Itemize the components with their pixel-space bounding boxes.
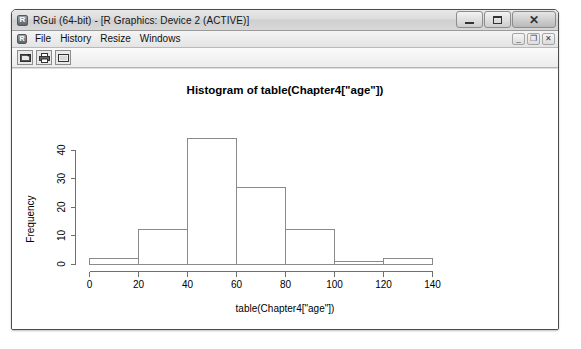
x-tick-label-0: 0 xyxy=(87,279,93,290)
mdi-minimize-button[interactable]: _ xyxy=(512,33,525,45)
maximize-button[interactable] xyxy=(484,11,511,28)
y-tick-label-20: 20 xyxy=(56,201,67,213)
x-tick-label-80: 80 xyxy=(280,279,292,290)
y-tick-label-30: 30 xyxy=(56,173,67,185)
toolbar xyxy=(12,48,558,68)
histogram-bar xyxy=(237,187,286,264)
x-tick-label-100: 100 xyxy=(326,279,343,290)
histogram-plot: Histogram of table(Chapter4["age"]) Freq… xyxy=(12,69,558,330)
y-tick-label-40: 40 xyxy=(56,144,67,156)
graphics-device-canvas[interactable]: Histogram of table(Chapter4["age"]) Freq… xyxy=(12,68,558,330)
rgui-window: RGui (64-bit) - [R Graphics: Device 2 (A… xyxy=(11,9,559,330)
x-axis-label: table(Chapter4["age"]) xyxy=(236,303,335,314)
mdi-restore-button[interactable]: ❐ xyxy=(527,33,540,45)
printer-icon xyxy=(39,53,50,63)
r-logo-icon xyxy=(17,15,28,26)
print-button[interactable] xyxy=(36,50,52,65)
menu-item-file[interactable]: File xyxy=(33,32,58,46)
copy-to-clipboard-button[interactable] xyxy=(17,50,33,65)
y-tick-label-10: 10 xyxy=(56,230,67,242)
x-tick-label-60: 60 xyxy=(231,279,243,290)
histogram-bar xyxy=(90,258,139,264)
close-button[interactable]: ✕ xyxy=(512,11,556,28)
histogram-bar xyxy=(139,230,188,264)
histogram-bar xyxy=(384,258,433,264)
mdi-close-button[interactable]: ✕ xyxy=(542,33,555,45)
x-tick-label-20: 20 xyxy=(133,279,145,290)
window-controls: ✕ xyxy=(455,11,556,28)
menubar: File History Resize Windows _ ❐ ✕ xyxy=(12,31,558,48)
x-tick-label-40: 40 xyxy=(182,279,194,290)
window-icon xyxy=(58,53,69,63)
y-axis-label: Frequency xyxy=(25,195,36,242)
mdi-r-logo-icon xyxy=(17,34,27,44)
histogram-bar xyxy=(286,230,335,264)
chart-title: Histogram of table(Chapter4["age"]) xyxy=(187,84,384,96)
x-tick-label-120: 120 xyxy=(375,279,392,290)
histogram-bar xyxy=(335,261,384,264)
y-axis: 0 10 20 30 40 xyxy=(56,144,76,267)
x-tick-label-140: 140 xyxy=(424,279,441,290)
mdi-window-controls: _ ❐ ✕ xyxy=(512,33,555,45)
histogram-bar xyxy=(188,139,237,264)
window-title: RGui (64-bit) - [R Graphics: Device 2 (A… xyxy=(33,15,249,26)
screen: RGui (64-bit) - [R Graphics: Device 2 (A… xyxy=(0,0,581,349)
menu-item-history[interactable]: History xyxy=(58,32,98,46)
window-titlebar[interactable]: RGui (64-bit) - [R Graphics: Device 2 (A… xyxy=(12,10,558,31)
menu-item-resize[interactable]: Resize xyxy=(98,32,138,46)
minimize-button[interactable] xyxy=(456,11,483,28)
clipboard-icon xyxy=(20,53,31,63)
new-window-button[interactable] xyxy=(55,50,71,65)
menu-item-windows[interactable]: Windows xyxy=(138,32,188,46)
y-tick-label-0: 0 xyxy=(56,261,67,267)
x-axis: 0 20 40 60 80 100 120 140 xyxy=(87,272,442,291)
histogram-bars xyxy=(90,139,433,264)
